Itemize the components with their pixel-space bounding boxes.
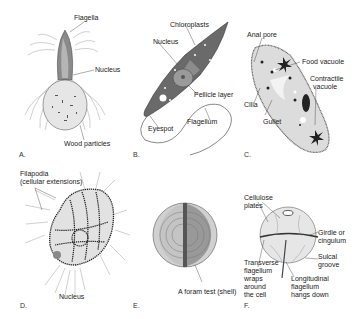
label-hangs-down: hangs down [291, 291, 329, 299]
label-chloroplasts: Chloroplasts [170, 21, 209, 29]
label-pellicle-layer: Pellicle layer [194, 91, 233, 99]
label-nucleus-d: Nucleus [59, 293, 84, 301]
label-sulcal: Sulcal [318, 253, 337, 261]
label-groove: groove [318, 261, 339, 269]
label-girdle: Girdle or [318, 229, 345, 237]
label-nucleus-a: Nucleus [95, 66, 120, 74]
paramecium-illustration [252, 38, 330, 152]
label-longitudinal-flagellum: flagellum [291, 283, 319, 291]
flagellate-illustration [25, 22, 105, 140]
label-contractile: Contractile [310, 75, 343, 83]
label-transverse-flagellum: flagellum [244, 267, 272, 275]
label-around: around [244, 283, 266, 291]
foraminifera-illustration [25, 172, 130, 295]
label-plates: plates [244, 202, 263, 210]
label-anal-pore: Anal pore [247, 31, 277, 39]
protist-illustrations [0, 0, 358, 319]
label-longitudinal: Longitudinal [291, 275, 329, 283]
label-flagella: Flagella [74, 14, 99, 22]
label-transverse: Transverse [244, 259, 279, 267]
label-foram-test: A foram test (shell) [178, 288, 236, 296]
label-the-cell: the cell [244, 291, 266, 299]
label-flagellum: Flagellum [187, 118, 217, 126]
panel-letter-e: E. [133, 302, 140, 309]
panel-letter-a: A. [19, 151, 26, 158]
label-eyespot: Eyespot [148, 125, 173, 133]
panel-letter-b: B. [133, 151, 140, 158]
label-filapodia: Filapodia [20, 170, 48, 178]
label-wraps: wraps [244, 275, 263, 283]
foram-shell-illustration [153, 203, 217, 282]
label-cellulose: Cellulose [244, 194, 273, 202]
panel-letter-c: C. [244, 151, 251, 158]
label-cingulum: cingulum [318, 237, 346, 245]
label-nucleus-b: Nucleus [153, 38, 178, 46]
panel-letter-d: D. [20, 302, 27, 309]
label-wood-particles: Wood particles [64, 140, 110, 148]
label-cellular-extensions: (cellular extensions) [20, 178, 82, 186]
label-gullet: Gullet [263, 118, 281, 126]
label-vacuole: vacuole [313, 83, 337, 91]
label-food-vacuole: Food vacuole [302, 58, 344, 66]
panel-letter-f: F. [244, 302, 249, 309]
label-cilia: Cilia [244, 101, 258, 109]
